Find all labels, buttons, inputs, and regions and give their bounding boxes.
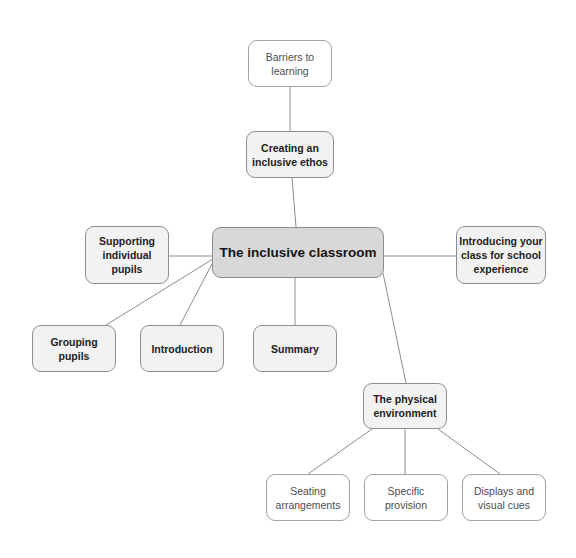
node-supporting[interactable]: Supporting individual pupils [85,226,169,284]
node-physical-label: The physical environment [373,392,437,420]
node-seating-label: Seating arrangements [276,484,341,512]
connector-center-to-physical [383,273,406,383]
connector-ethos-to-center [292,178,296,227]
node-barriers-label: Barriers to learning [266,50,314,78]
node-specific-label: Specific provision [385,484,427,512]
node-ethos[interactable]: Creating an inclusive ethos [246,131,334,178]
node-introduction[interactable]: Introduction [140,325,224,372]
node-barriers[interactable]: Barriers to learning [248,40,332,87]
node-introduction-label: Introduction [151,342,212,356]
node-physical[interactable]: The physical environment [363,383,447,429]
node-introducing-label: Introducing your class for school experi… [459,234,542,276]
node-specific[interactable]: Specific provision [364,474,448,521]
node-ethos-label: Creating an inclusive ethos [252,141,328,169]
node-summary[interactable]: Summary [253,325,337,372]
node-grouping-label: Grouping pupils [50,335,97,363]
node-seating[interactable]: Seating arrangements [266,474,350,521]
mindmap-canvas: Barriers to learningCreating an inclusiv… [0,0,576,558]
node-supporting-label: Supporting individual pupils [99,234,155,276]
connector-physical-to-displays [438,429,500,474]
node-center[interactable]: The inclusive classroom [212,227,384,278]
connector-physical-to-seating [308,429,372,474]
node-summary-label: Summary [271,342,319,356]
node-grouping[interactable]: Grouping pupils [32,325,116,372]
node-displays-label: Displays and visual cues [474,484,534,512]
node-center-label: The inclusive classroom [220,245,377,261]
connector-center-to-introduction [180,260,214,325]
node-introducing[interactable]: Introducing your class for school experi… [456,226,546,284]
node-displays[interactable]: Displays and visual cues [462,474,546,521]
